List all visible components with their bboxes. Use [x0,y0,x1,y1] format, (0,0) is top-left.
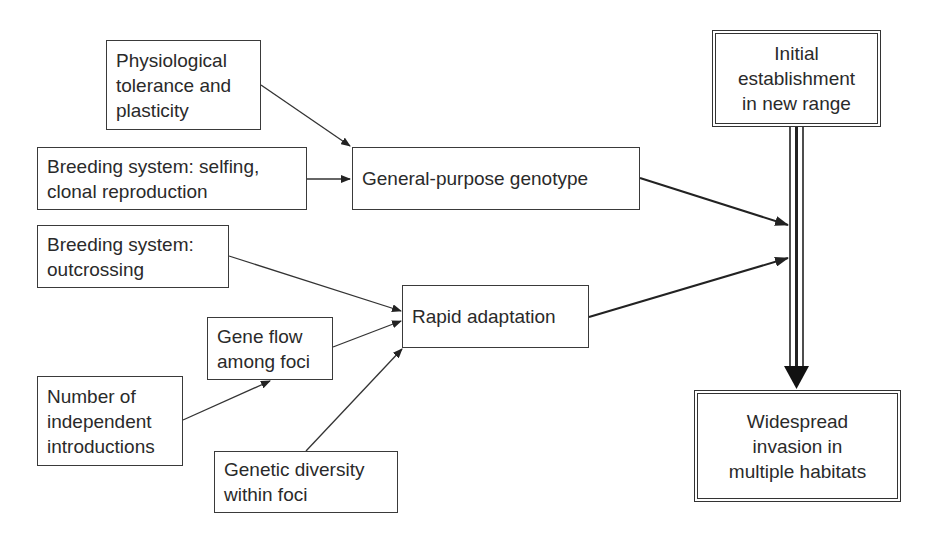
node-label: General-purpose genotype [362,166,588,191]
node-label: Breeding system: outcrossing [47,232,194,282]
arrow-geneflow-to-rapid [333,321,401,347]
node-widespread-invasion: Widespread invasion in multiple habitats [694,390,901,502]
node-label: Rapid adaptation [412,304,556,329]
node-physiological-tolerance: Physiological tolerance and plasticity [106,40,261,130]
node-label: Physiological tolerance and plasticity [116,48,231,123]
node-genetic-diversity: Genetic diversity within foci [214,451,398,513]
arrow-rapid-to-main-link [589,258,788,317]
node-breeding-selfing: Breeding system: selfing, clonal reprodu… [37,147,307,210]
node-initial-establishment: Initial establishment in new range [712,30,881,127]
node-independent-introductions: Number of independent introductions [37,376,183,466]
arrowhead-down-icon [784,366,809,389]
arrow-introductions-to-geneflow [183,381,270,420]
node-gene-flow: Gene flow among foci [207,317,333,380]
node-rapid-adaptation: Rapid adaptation [402,285,589,348]
node-label: Widespread invasion in multiple habitats [729,409,866,484]
node-label: Genetic diversity within foci [224,457,364,507]
node-label: Number of independent introductions [47,384,155,459]
node-label: Breeding system: selfing, clonal reprodu… [47,154,259,204]
arrow-general-to-main-link [640,178,788,225]
arrow-outcrossing-to-rapid [229,256,401,311]
node-breeding-outcrossing: Breeding system: outcrossing [37,225,229,288]
node-general-purpose-genotype: General-purpose genotype [352,147,640,210]
node-label: Initial establishment in new range [738,41,855,116]
arrow-physiological-to-general [261,85,350,146]
node-label: Gene flow among foci [217,324,310,374]
